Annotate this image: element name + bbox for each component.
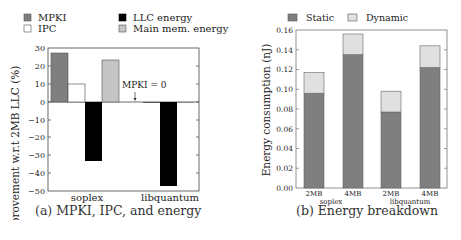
svg-text:4MB: 4MB [345, 190, 362, 198]
svg-text:0.02: 0.02 [276, 164, 293, 173]
svg-text:0: 0 [40, 98, 45, 107]
legend-swatch-static [288, 14, 297, 21]
bar-static [420, 68, 440, 189]
legend-label-llc-energy: LLC energy [133, 12, 193, 23]
svg-text:2MB: 2MB [306, 190, 323, 198]
svg-text:−50: −50 [28, 187, 45, 196]
svg-text:0.00: 0.00 [276, 184, 293, 193]
bar-group-soplex [51, 53, 119, 161]
stacked-bar-libquantum-2mb [381, 91, 401, 188]
bar-libquantum-main-mem-energy [177, 102, 194, 103]
svg-text:0.16: 0.16 [276, 26, 293, 35]
legend-label-ipc: IPC [38, 23, 57, 34]
y-ticks-a: 30 20 10 0 −10 −20 −30 −40 −50 [28, 44, 45, 196]
bar-soplex-mpki [51, 53, 68, 102]
legend-swatch-mpki [24, 14, 31, 21]
svg-text:2MB: 2MB [383, 190, 400, 198]
legend-label-main-mem-energy: Main mem. energy [133, 23, 229, 34]
bar-static [343, 55, 363, 188]
stacked-bar-soplex-2mb [304, 73, 324, 189]
y-axis-label-a: Improvement w.r.t 2MB LLC (%) [9, 66, 21, 220]
x-label-libquantum: libquantum [141, 192, 200, 203]
bar-static [304, 93, 324, 188]
stacked-bar-soplex-4mb [343, 34, 363, 188]
caption-a: (a) MPKI, IPC, and energy [35, 203, 201, 218]
svg-text:−40: −40 [28, 169, 45, 178]
svg-text:−10: −10 [28, 116, 45, 125]
mpki-ipc-energy-chart: MPKI IPC LLC energy Main mem. energy Imp… [0, 0, 230, 240]
y-axis-label-b: Energy consumption (nJ) [260, 44, 272, 177]
bar-soplex-llc-energy [85, 102, 102, 161]
y-ticks-b: 0.16 0.14 0.12 0.10 0.08 0.06 0.04 0.02 … [276, 26, 293, 193]
svg-text:10: 10 [35, 80, 45, 89]
legend-b: Static Dynamic [288, 12, 408, 23]
bar-dynamic [420, 46, 440, 68]
bar-dynamic [343, 34, 363, 55]
chart-b-svg: Static Dynamic Energy consumption (nJ) 0… [230, 0, 461, 220]
bar-soplex-main-mem-energy [102, 60, 119, 102]
legend-label-dynamic: Dynamic [366, 12, 408, 23]
svg-text:0.12: 0.12 [276, 65, 293, 74]
svg-text:20: 20 [35, 62, 45, 71]
legend-a: MPKI IPC LLC energy Main mem. energy [24, 12, 229, 34]
bar-static [381, 112, 401, 188]
bar-dynamic [304, 73, 324, 94]
x-label-soplex: soplex [71, 192, 104, 203]
legend-label-mpki: MPKI [38, 12, 66, 23]
svg-text:0.10: 0.10 [276, 85, 293, 94]
caption-b: (b) Energy breakdown [296, 203, 438, 218]
bar-libquantum-llc-energy [160, 102, 177, 186]
svg-text:30: 30 [35, 44, 45, 53]
energy-breakdown-chart: Static Dynamic Energy consumption (nJ) 0… [230, 0, 461, 240]
chart-a-svg: MPKI IPC LLC energy Main mem. energy Imp… [0, 0, 230, 220]
svg-text:0.14: 0.14 [276, 46, 293, 55]
svg-text:4MB: 4MB [422, 190, 439, 198]
annotation-mpki-zero: MPKI = 0 [122, 80, 167, 90]
legend-swatch-ipc [24, 25, 31, 32]
legend-swatch-dynamic [348, 14, 357, 21]
svg-text:0.04: 0.04 [276, 144, 293, 153]
legend-swatch-main-mem-energy [119, 25, 126, 32]
bar-libquantum-ipc [143, 102, 160, 103]
svg-text:0.08: 0.08 [276, 105, 293, 114]
svg-text:0.06: 0.06 [276, 125, 293, 134]
bar-dynamic [381, 91, 401, 112]
bar-soplex-ipc [68, 84, 85, 102]
stacked-bar-libquantum-4mb [420, 46, 440, 188]
legend-label-static: Static [306, 12, 334, 23]
bar-group-libquantum [143, 102, 194, 186]
legend-swatch-llc-energy [119, 14, 126, 21]
svg-text:−20: −20 [28, 133, 45, 142]
svg-text:−30: −30 [28, 151, 45, 160]
